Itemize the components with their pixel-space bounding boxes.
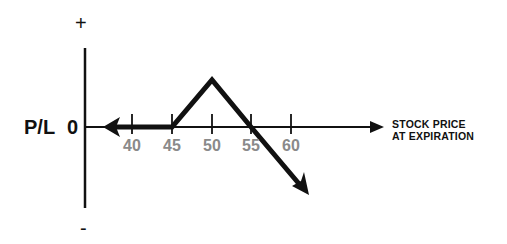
x-tick-label: 60 — [282, 137, 300, 155]
x-tick-label: 45 — [163, 137, 181, 155]
y-zero-label: 0 — [67, 117, 78, 137]
y-negative-label: - — [80, 218, 87, 238]
x-tick-label: 50 — [203, 137, 221, 155]
y-axis-label: P/L — [24, 117, 55, 137]
x-axis-label-line-1: STOCK PRICE — [392, 118, 474, 130]
x-tick-label: 55 — [242, 137, 260, 155]
x-axis-label: STOCK PRICE AT EXPIRATION — [392, 118, 474, 142]
x-tick-label: 40 — [123, 137, 141, 155]
payoff-line — [112, 80, 300, 185]
y-positive-label: + — [75, 13, 87, 33]
x-axis-label-line-2: AT EXPIRATION — [392, 130, 474, 142]
x-axis-arrow-icon — [370, 121, 384, 133]
x-ticks — [132, 114, 291, 134]
